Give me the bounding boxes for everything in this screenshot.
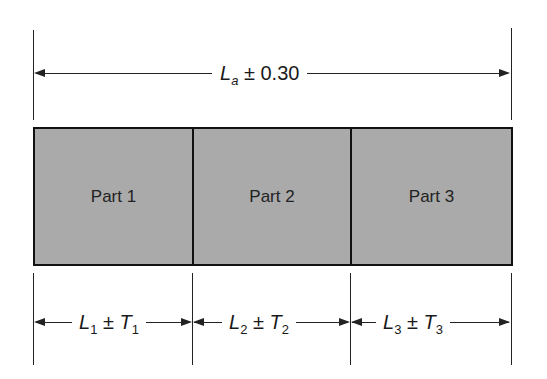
- tolerance-symbol: T: [423, 311, 435, 333]
- tolerance-subscript: 3: [436, 322, 443, 337]
- tolerance-symbol: T: [269, 311, 281, 333]
- plus-minus: ±: [253, 311, 264, 333]
- part-3: Part 3: [350, 129, 511, 264]
- part-1: Part 1: [35, 129, 192, 264]
- length-symbol: L: [229, 311, 240, 333]
- part-1-dimension-label: L1 ± T1: [72, 310, 146, 342]
- length-subscript: 2: [240, 322, 247, 337]
- length-subscript: 3: [394, 322, 401, 337]
- tolerance-subscript: 1: [132, 322, 139, 337]
- overall-tolerance: 0.30: [260, 62, 299, 84]
- assembly-bar: Part 1 Part 2 Part 3: [33, 127, 513, 266]
- part-1-label: Part 1: [91, 187, 136, 207]
- arrow-right-icon: [499, 318, 510, 326]
- length-symbol: L: [383, 311, 394, 333]
- plus-minus: ±: [407, 311, 418, 333]
- part-2-label: Part 2: [249, 187, 294, 207]
- part-3-dimension-label: L3 ± T3: [376, 310, 450, 342]
- plus-minus: ±: [244, 62, 255, 84]
- length-subscript: a: [231, 73, 238, 88]
- extension-line-right: [511, 28, 512, 120]
- part-3-label: Part 3: [409, 187, 454, 207]
- arrow-right-icon: [499, 69, 510, 77]
- arrow-right-icon: [181, 318, 192, 326]
- arrow-left-icon: [351, 318, 362, 326]
- arrow-right-icon: [339, 318, 350, 326]
- length-symbol: L: [220, 62, 231, 84]
- part-2: Part 2: [192, 129, 350, 264]
- arrow-left-icon: [34, 318, 45, 326]
- length-subscript: 1: [90, 322, 97, 337]
- arrow-left-icon: [34, 69, 45, 77]
- part-2-dimension-label: L2 ± T2: [222, 310, 296, 342]
- overall-dimension-label: La ± 0.30: [212, 61, 307, 93]
- tolerance-symbol: T: [119, 311, 131, 333]
- length-symbol: L: [79, 311, 90, 333]
- extension-line-4: [511, 273, 512, 365]
- plus-minus: ±: [103, 311, 114, 333]
- tolerance-subscript: 2: [282, 322, 289, 337]
- arrow-left-icon: [193, 318, 204, 326]
